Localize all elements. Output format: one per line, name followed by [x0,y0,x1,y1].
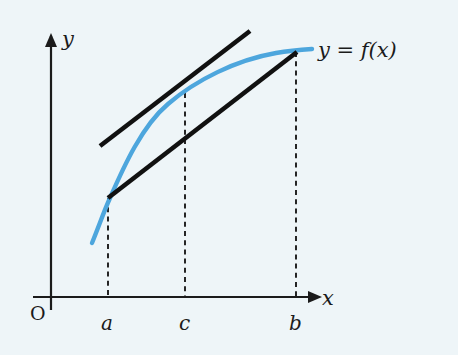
tick-label-b: b [289,311,302,335]
tick-label-c: c [179,311,190,335]
y-axis-label: y [61,27,75,51]
origin-label: O [30,302,46,324]
curve-label: y = f(x) [317,38,397,62]
figure-canvas: y = f(x) y x O a c b [0,0,458,355]
x-axis-label: x [322,286,334,310]
tick-label-a: a [101,311,113,335]
mvt-diagram: y = f(x) y x O a c b [0,0,458,355]
